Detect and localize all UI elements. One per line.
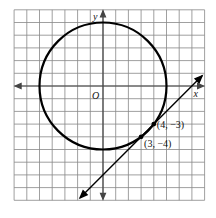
- point-dot: [151, 122, 156, 127]
- origin-label: O: [92, 90, 99, 101]
- coordinate-plane-figure: y x O (4, −3) (3, −4): [0, 0, 216, 218]
- point-label-4-neg3: (4, −3): [157, 119, 184, 131]
- x-axis-label: x: [193, 88, 199, 99]
- point-label-3-neg4: (3, −4): [144, 138, 171, 150]
- point-dot: [139, 134, 144, 139]
- y-axis-label: y: [92, 11, 98, 22]
